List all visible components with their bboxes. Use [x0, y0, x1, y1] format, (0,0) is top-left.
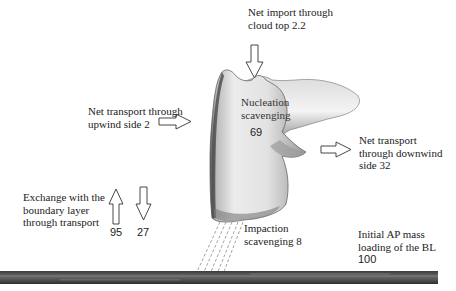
initial-mass-label: Initial AP mass loading of the BL 100 — [358, 228, 436, 266]
nucleation-label-line2: scavenging — [241, 109, 290, 122]
ground-strip — [0, 271, 438, 284]
cloud-top-label-line1: Net import through — [248, 6, 333, 19]
exchange-up-arrow-icon — [109, 189, 123, 224]
nucleation-value: 69 — [250, 126, 262, 138]
exchange-down-arrow-icon — [136, 187, 151, 220]
upwind-label-line1: Net transport through — [88, 105, 183, 118]
impaction-label-line1: Impaction — [244, 222, 302, 235]
exchange-label-line1: Exchange with the — [23, 191, 105, 204]
downwind-label: Net transport through downwind side 32 — [359, 134, 442, 172]
downwind-label-line2: through downwind — [359, 147, 442, 160]
exchange-down-value: 27 — [137, 226, 149, 238]
cloud-top-label-line2: cloud top 2.2 — [248, 19, 333, 32]
impaction-label: Impaction scavenging 8 — [244, 222, 302, 247]
exchange-label: Exchange with the boundary layer through… — [23, 191, 105, 229]
downwind-arrow-icon — [321, 142, 351, 157]
nucleation-label-line1: Nucleation — [241, 96, 290, 109]
impaction-label-line2: scavenging 8 — [244, 235, 302, 248]
exchange-label-line2: boundary layer — [23, 204, 105, 217]
exchange-label-line3: through transport — [23, 216, 105, 229]
exchange-up-value: 95 — [110, 226, 122, 238]
nucleation-label: Nucleation scavenging — [241, 96, 290, 121]
downwind-label-line3: side 32 — [359, 159, 442, 172]
upwind-label-line2: upwind side 2 — [88, 118, 183, 131]
cloud-top-arrow-icon — [246, 45, 263, 78]
initial-mass-value: 100 — [358, 253, 436, 266]
cloud-top-label: Net import through cloud top 2.2 — [248, 6, 333, 31]
initial-mass-label-line1: Initial AP mass — [358, 228, 436, 241]
impaction-rain-lines — [196, 222, 243, 274]
downwind-label-line1: Net transport — [359, 134, 442, 147]
upwind-label: Net transport through upwind side 2 — [88, 105, 183, 130]
initial-mass-label-line2: loading of the BL — [358, 241, 436, 254]
